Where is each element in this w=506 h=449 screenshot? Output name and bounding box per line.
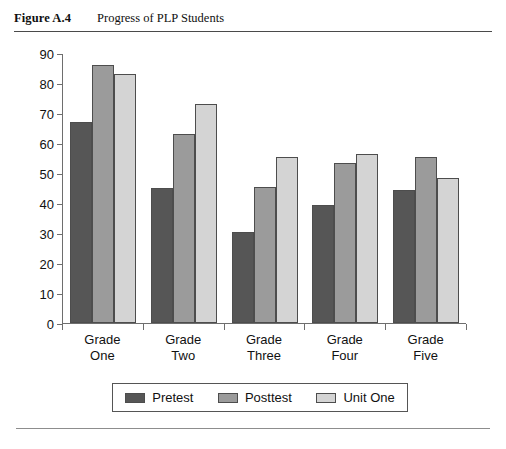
caption-divider-top xyxy=(14,31,492,32)
y-axis-tick-label: 60 xyxy=(28,137,54,152)
bar-group xyxy=(312,53,378,323)
x-axis-tick-mark xyxy=(385,324,386,330)
bar-group xyxy=(151,53,217,323)
bar-grade-three-posttest[interactable] xyxy=(254,187,276,323)
y-axis-tick-mark xyxy=(57,84,62,85)
legend-swatch-icon xyxy=(125,393,145,403)
chart-legend: PretestPosttestUnit One xyxy=(112,383,408,412)
bar-group xyxy=(70,53,136,323)
y-axis-tick-label: 70 xyxy=(28,107,54,122)
bar-grade-one-posttest[interactable] xyxy=(92,65,114,323)
y-axis-tick-label: 10 xyxy=(28,287,54,302)
legend-swatch-icon xyxy=(218,393,238,403)
bar-grade-two-posttest[interactable] xyxy=(173,134,195,323)
x-axis-category-line: Grade xyxy=(224,332,305,348)
bar-grade-three-pretest[interactable] xyxy=(232,232,254,323)
x-axis-category-label: GradeThree xyxy=(224,332,305,363)
y-axis-tick-mark xyxy=(57,204,62,205)
x-axis-category-label: GradeFour xyxy=(304,332,385,363)
figure-caption: Figure A.4Progress of PLP Students xyxy=(14,11,224,26)
legend-entry-unit-one[interactable]: Unit One xyxy=(316,390,394,405)
y-axis-tick-label: 40 xyxy=(28,197,54,212)
x-axis-category-label: GradeFive xyxy=(385,332,466,363)
x-axis-tick-mark xyxy=(224,324,225,330)
bar-grade-four-unit-one[interactable] xyxy=(356,154,378,324)
legend-swatch-icon xyxy=(316,393,336,403)
bar-grade-one-pretest[interactable] xyxy=(70,122,92,323)
bar-grade-three-unit-one[interactable] xyxy=(276,157,298,324)
bar-group xyxy=(232,53,298,323)
legend-entry-posttest[interactable]: Posttest xyxy=(218,390,292,405)
x-axis-category-line: Five xyxy=(385,348,466,364)
x-axis-category-line: Two xyxy=(143,348,224,364)
x-axis-category-line: Grade xyxy=(62,332,143,348)
y-axis-tick-mark xyxy=(57,144,62,145)
figure-title: Progress of PLP Students xyxy=(97,11,224,25)
plot-area xyxy=(62,54,466,324)
bar-grade-two-unit-one[interactable] xyxy=(195,104,217,323)
x-axis-category-label: GradeTwo xyxy=(143,332,224,363)
x-axis-category-line: Grade xyxy=(143,332,224,348)
bar-grade-five-unit-one[interactable] xyxy=(437,178,459,324)
bar-grade-four-posttest[interactable] xyxy=(334,163,356,324)
legend-label: Unit One xyxy=(343,390,394,405)
x-axis-category-line: Grade xyxy=(385,332,466,348)
x-axis-tick-mark xyxy=(304,324,305,330)
x-axis-category-line: Four xyxy=(304,348,385,364)
legend-label: Pretest xyxy=(152,390,193,405)
x-axis-tick-mark xyxy=(62,324,63,330)
legend-label: Posttest xyxy=(245,390,292,405)
bar-grade-two-pretest[interactable] xyxy=(151,188,173,323)
y-axis-tick-mark xyxy=(57,114,62,115)
y-axis-tick-label: 50 xyxy=(28,167,54,182)
bar-chart: 0102030405060708090 GradeOneGradeTwoGrad… xyxy=(0,40,506,340)
x-axis-tick-mark xyxy=(143,324,144,330)
legend-entry-pretest[interactable]: Pretest xyxy=(125,390,193,405)
y-axis-tick-label: 80 xyxy=(28,77,54,92)
x-axis-labels: GradeOneGradeTwoGradeThreeGradeFourGrade… xyxy=(62,332,466,374)
x-axis-category-line: Grade xyxy=(304,332,385,348)
bar-group xyxy=(393,53,459,323)
y-axis-tick-mark xyxy=(57,54,62,55)
y-axis-tick-label: 30 xyxy=(28,227,54,242)
y-axis-line xyxy=(62,54,63,325)
x-axis-line xyxy=(62,323,466,324)
x-axis-category-line: Three xyxy=(224,348,305,364)
y-axis-tick-mark xyxy=(57,174,62,175)
y-axis-tick-mark xyxy=(57,294,62,295)
y-axis-labels: 0102030405060708090 xyxy=(26,40,54,325)
y-axis-tick-mark xyxy=(57,234,62,235)
figure-number: Figure A.4 xyxy=(14,11,71,25)
y-axis-tick-label: 20 xyxy=(28,257,54,272)
x-axis-category-label: GradeOne xyxy=(62,332,143,363)
y-axis-tick-label: 0 xyxy=(28,317,54,332)
x-axis-tick-mark xyxy=(466,324,467,330)
y-axis-tick-label: 90 xyxy=(28,47,54,62)
bar-grade-five-posttest[interactable] xyxy=(415,157,437,324)
bar-grade-four-pretest[interactable] xyxy=(312,205,334,324)
figure-divider-bottom xyxy=(16,428,490,429)
y-axis-tick-mark xyxy=(57,264,62,265)
bar-grade-five-pretest[interactable] xyxy=(393,190,415,324)
bar-grade-one-unit-one[interactable] xyxy=(114,74,136,323)
x-axis-category-line: One xyxy=(62,348,143,364)
